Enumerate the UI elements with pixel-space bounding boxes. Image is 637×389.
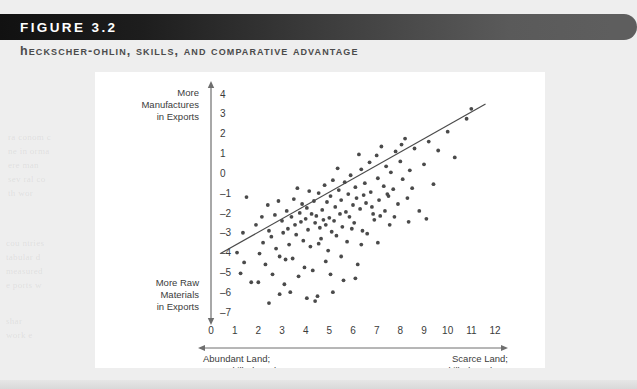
data-point	[350, 227, 354, 231]
data-point	[403, 137, 407, 141]
data-point	[293, 223, 297, 227]
data-point	[326, 249, 330, 253]
data-point	[333, 205, 337, 209]
data-point	[297, 274, 301, 278]
data-point	[351, 203, 355, 207]
data-point	[361, 229, 365, 233]
data-point	[290, 215, 294, 219]
data-point	[274, 247, 278, 251]
data-point	[310, 212, 314, 216]
data-point	[298, 211, 302, 215]
data-point	[331, 178, 335, 182]
ghost-text-line: sev ral co	[8, 174, 45, 184]
x-tick-label: 11	[466, 325, 477, 336]
x-axis-arrow-right	[501, 345, 508, 351]
y-axis-top-note: in Exports	[157, 111, 199, 122]
data-point	[359, 243, 363, 247]
ghost-text-line: measured	[6, 266, 43, 276]
data-point	[363, 181, 367, 185]
data-point	[359, 167, 363, 171]
data-point	[432, 182, 436, 186]
data-point	[339, 198, 343, 202]
data-point	[365, 232, 369, 236]
data-point	[391, 187, 395, 191]
ghost-text-line: ere man	[8, 160, 39, 170]
x-tick-label: 0	[208, 325, 214, 336]
data-point	[465, 117, 469, 121]
data-point	[344, 210, 348, 214]
data-point	[295, 186, 299, 190]
figure-number-badge: FIGURE 3.2	[20, 14, 118, 40]
regression-line	[220, 104, 485, 254]
data-point	[376, 176, 380, 180]
x-axis-left-note: Less-Skilled Workers	[203, 365, 292, 368]
ghost-text-line: shar	[6, 316, 22, 326]
data-point	[320, 208, 324, 212]
figure-title: Heckscher-Ohlin, Skills, and Comparative…	[20, 44, 359, 58]
data-point	[348, 215, 352, 219]
x-tick-label: 3	[279, 325, 285, 336]
data-point	[362, 193, 366, 197]
x-tick-label: 9	[421, 325, 427, 336]
data-point	[239, 271, 243, 275]
y-axis-arrow-down	[208, 318, 214, 325]
data-point	[301, 239, 305, 243]
data-point	[299, 220, 303, 224]
data-point	[389, 170, 393, 174]
data-point	[353, 276, 357, 280]
data-point	[353, 185, 357, 189]
data-point	[357, 153, 361, 157]
data-point	[323, 183, 327, 187]
data-point	[242, 261, 246, 265]
data-point	[303, 266, 307, 270]
data-point	[330, 230, 334, 234]
data-point	[260, 215, 264, 219]
data-point	[261, 241, 265, 245]
data-point	[324, 223, 328, 227]
data-point	[446, 130, 450, 134]
data-point	[264, 263, 268, 267]
data-point	[306, 228, 310, 232]
x-tick-label: 7	[374, 325, 380, 336]
data-point	[383, 209, 387, 213]
data-point	[352, 221, 356, 225]
x-tick-label: 1	[232, 325, 238, 336]
ghost-text-line: cou ntries	[6, 238, 44, 248]
data-point	[385, 192, 389, 196]
data-point	[267, 301, 271, 305]
ghost-text-line: tabular d	[6, 252, 40, 262]
data-point	[355, 196, 359, 200]
data-point	[317, 191, 321, 195]
y-tick-label: –3	[220, 227, 232, 238]
y-axis-bottom-note: Materials	[160, 289, 199, 300]
data-point	[422, 162, 426, 166]
data-point	[258, 252, 262, 256]
data-point	[339, 255, 343, 259]
data-point	[300, 202, 304, 206]
x-axis-right-note: Scarce Land;	[452, 353, 508, 364]
data-point	[318, 226, 322, 230]
y-tick-label: –1	[220, 188, 232, 199]
data-point	[305, 206, 309, 210]
data-point	[249, 280, 253, 284]
page-edge	[0, 380, 637, 389]
data-point	[356, 263, 360, 267]
data-point	[313, 299, 317, 303]
data-point	[254, 223, 258, 227]
data-point	[376, 241, 380, 245]
data-point	[277, 199, 281, 203]
figure-header: FIGURE 3.2	[0, 14, 637, 40]
data-point	[393, 215, 397, 219]
data-point	[401, 177, 405, 181]
trend-line	[220, 104, 485, 254]
x-tick-label: 6	[350, 325, 356, 336]
x-tick-label: 5	[327, 325, 333, 336]
y-axis-top-note: More	[177, 87, 199, 98]
data-point	[358, 207, 362, 211]
data-point	[278, 292, 282, 296]
data-point	[288, 290, 292, 294]
data-point	[469, 107, 473, 111]
data-point	[307, 189, 311, 193]
y-axis-top-note: Manufactures	[141, 99, 199, 110]
data-point	[336, 166, 340, 170]
